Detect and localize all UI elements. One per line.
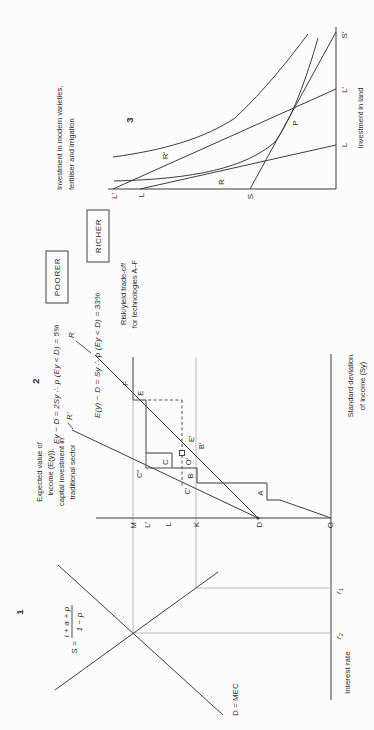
- panel3-ytick-l-prime: L′: [110, 193, 119, 199]
- tradeoff-line1: Risk/yield trade-off: [119, 262, 128, 325]
- scanned-page: 1 S = i + a + p 1 − p D = MEC Interest r…: [0, 0, 374, 730]
- supply-eq-denominator: 1 − p: [75, 612, 84, 631]
- budget-line-l-prime: [113, 89, 336, 189]
- r1-tick: r1: [334, 588, 344, 594]
- r2-tick: r2: [334, 633, 344, 639]
- panel3-xtick-s-prime: S′: [340, 31, 349, 38]
- panel3-xtick-l: L: [340, 142, 349, 147]
- demand-line: [58, 565, 223, 715]
- e-prime-label: E′: [187, 435, 196, 442]
- axis-point-k: K: [192, 521, 201, 527]
- r-prime-leader: [68, 423, 73, 429]
- axis-point-l-prime: L′: [143, 522, 152, 528]
- panel2-y-axis-title: Expected value of income (E(y)), capital…: [35, 438, 77, 506]
- isoquant-r-prime-label: R′: [161, 152, 170, 160]
- axis-point-d: D: [255, 522, 264, 528]
- p-point-label: P: [291, 120, 300, 125]
- s-line-label: S: [246, 194, 255, 199]
- panel3-number: 3: [124, 117, 135, 122]
- richer-equation: E(y) − D = Sy ∴ p (Ey < D) = 33%: [93, 293, 102, 418]
- supply-equation: S = i + a + p 1 − p: [62, 605, 84, 654]
- y-title-line3: capital investment in: [57, 438, 66, 506]
- panel3-title: Investment in modern varieties, fertilis…: [55, 86, 76, 190]
- technology-staircase: [133, 357, 331, 518]
- x-title-line1: Standard deviation: [346, 355, 355, 418]
- interest-rate-axis-label: Interest rate: [343, 651, 352, 694]
- isoquant-r-prime: [113, 34, 308, 157]
- panel3-x-axis-label: Investment in land: [356, 88, 365, 149]
- poorer-tag: POORER: [53, 258, 62, 296]
- tradeoff-line2: for technologies A–F: [130, 259, 139, 328]
- tech-c-label: C: [161, 459, 170, 465]
- y-title-line2: income (E(y)),: [46, 448, 55, 495]
- tradeoff-note: Risk/yield trade-off for technologies A–…: [119, 259, 139, 328]
- supply-eq-lhs: S =: [70, 641, 79, 654]
- axis-point-o: O: [326, 522, 335, 528]
- panel3-title-line1: Investment in modern varieties,: [55, 86, 64, 190]
- panel3-xtick-l-prime: L′: [340, 87, 349, 93]
- r-leader: [76, 341, 91, 353]
- panel1-number: 1: [14, 609, 25, 615]
- x-title-line2: of income (Sy): [358, 361, 367, 410]
- tech-a-label: A: [256, 490, 265, 496]
- tech-b-label: B: [186, 473, 195, 478]
- three-panel-diagram: 1 S = i + a + p 1 − p D = MEC Interest r…: [0, 0, 374, 730]
- panel3-title-line2: fertiliser and irrigation: [67, 118, 76, 190]
- poorer-constraint-ray: [72, 430, 258, 518]
- c-dprime-label: C″: [135, 470, 144, 478]
- richer-tag: RICHER: [94, 219, 103, 253]
- figure-canvas: 1 S = i + a + p 1 − p D = MEC Interest r…: [0, 0, 374, 730]
- tech-e-label: E: [136, 391, 145, 396]
- y-title-line4: traditional sector: [68, 444, 77, 500]
- poorer-equation: Ey − D = 2Sy ∴ p (Ey < D) = 5%: [52, 324, 61, 444]
- d-point-dot: [256, 516, 259, 519]
- tech-f-label: F: [121, 381, 130, 386]
- supply-eq-numerator: i + a + p: [62, 606, 71, 637]
- y-title-line1: Expected value of: [35, 441, 44, 502]
- o-prime-label: O′: [184, 457, 193, 465]
- axis-point-m: M: [129, 522, 138, 529]
- panel2-x-axis-title: Standard deviation of income (Sy): [346, 355, 367, 418]
- demand-label: D = MEC: [231, 683, 240, 716]
- panel2-number: 2: [30, 378, 41, 383]
- panel3-ytick-l: L: [137, 192, 146, 197]
- isoquant-r-label: R: [217, 179, 226, 185]
- richer-constraint-ray: [95, 355, 258, 518]
- b-prime-label: B′: [197, 442, 206, 449]
- c-prime-label: C′: [183, 487, 192, 494]
- r-ray-label: R: [67, 332, 76, 338]
- o-prime-marker: [180, 451, 185, 456]
- r-prime-ray-label: R′: [65, 412, 74, 420]
- isoquant-r: [114, 38, 318, 181]
- axis-point-l: L: [164, 521, 173, 526]
